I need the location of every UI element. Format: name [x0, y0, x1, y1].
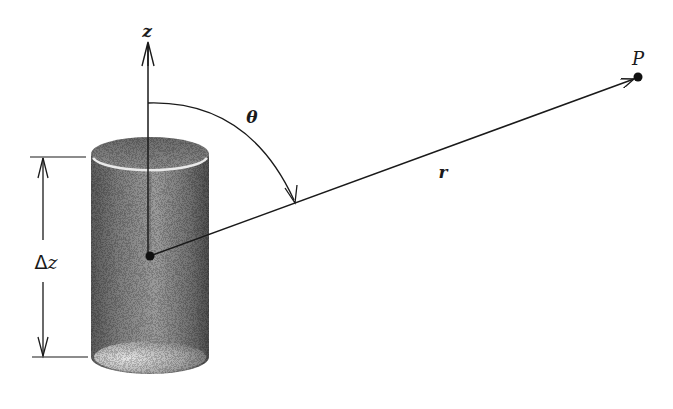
point-P-label: P	[632, 50, 644, 68]
z-axis-label: z	[142, 23, 152, 40]
diagram-canvas	[0, 0, 673, 409]
r-label: r	[439, 164, 448, 181]
delta-z-label: Δz	[34, 253, 57, 272]
figure-cylinder-field-point: z θ r P Δz	[0, 0, 673, 409]
z-axis-arrowhead-icon	[142, 42, 154, 66]
source-point-dot	[146, 252, 155, 261]
field-point-P-dot	[634, 73, 643, 82]
theta-label: θ	[246, 109, 257, 126]
delta-symbol: Δ	[34, 251, 47, 273]
delta-z-variable: z	[47, 251, 57, 273]
r-vector	[150, 79, 634, 256]
